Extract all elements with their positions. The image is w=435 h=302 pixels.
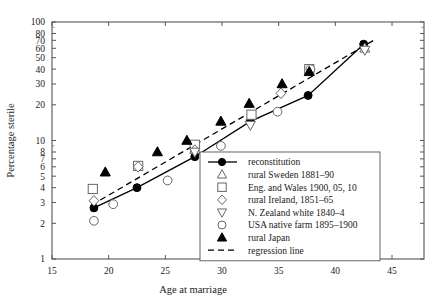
y-tick-label: 3 xyxy=(40,198,45,208)
data-point-filled-circle xyxy=(304,91,312,99)
data-point-triangle-up-filled xyxy=(100,167,110,176)
y-tick-label: 5 xyxy=(40,172,45,182)
legend-label: rural Sweden 1881–90 xyxy=(248,170,334,180)
data-point-circle-open xyxy=(216,142,225,151)
legend-label: reconstitution xyxy=(248,157,300,167)
y-tick-label: 40 xyxy=(36,65,46,75)
legend-label: USA native farm 1895–1900 xyxy=(248,220,358,230)
data-point-triangle-up-filled xyxy=(216,116,226,125)
x-tick-label: 40 xyxy=(331,266,341,276)
legend-label: regression line xyxy=(248,246,304,256)
legend-label: rural Japan xyxy=(248,233,290,243)
chart-figure: 123456781020304050607080100 152025303540… xyxy=(0,0,435,302)
y-tick-label: 20 xyxy=(36,100,46,110)
data-point-filled-circle xyxy=(133,184,141,192)
y-tick-label: 4 xyxy=(40,183,45,193)
y-axis-title: Percentage sterile xyxy=(5,103,16,178)
data-point-circle-open xyxy=(90,216,99,225)
sterility-log-scatter-chart: 123456781020304050607080100 152025303540… xyxy=(0,0,435,302)
data-point-triangle-up-filled xyxy=(152,147,162,156)
data-point-triangle-up-filled xyxy=(277,79,287,88)
x-axis-title: Age at marriage xyxy=(159,284,227,295)
chart-legend: reconstitutionrural Sweden 1881–90Eng. a… xyxy=(200,152,380,261)
x-tick-label: 25 xyxy=(161,266,171,276)
x-tick-label: 35 xyxy=(274,266,284,276)
data-point-circle-open xyxy=(273,107,282,116)
y-tick-label: 10 xyxy=(36,136,46,146)
legend-label: N. Zealand white 1840–4 xyxy=(248,208,345,218)
y-tick-label: 80 xyxy=(36,29,46,39)
data-point-circle-open xyxy=(109,200,118,209)
data-point-square-open xyxy=(88,184,97,193)
legend-box xyxy=(200,152,380,261)
data-point-triangle-up-filled xyxy=(244,98,254,107)
y-tick-label: 1 xyxy=(40,254,45,264)
y-tick-label: 2 xyxy=(40,219,45,229)
data-point-diamond-open xyxy=(89,195,99,206)
axis-titles: Age at marriagePercentage sterile xyxy=(5,103,227,295)
legend-label: Eng. and Wales 1900, 05, 10 xyxy=(248,183,357,193)
y-tick-label: 8 xyxy=(40,147,45,157)
data-point-filled-circle xyxy=(218,158,225,165)
x-tick-label: 20 xyxy=(104,266,114,276)
data-point-square-open xyxy=(218,183,226,191)
y-tick-label: 50 xyxy=(36,53,46,63)
data-point-circle-open xyxy=(218,221,226,229)
data-point-circle-open xyxy=(163,176,172,185)
x-tick-label: 30 xyxy=(217,266,227,276)
data-point-square-open xyxy=(247,110,256,119)
legend-label: rural Ireland, 1851–65 xyxy=(248,195,333,205)
y-tick-label: 100 xyxy=(31,17,46,27)
x-tick-label: 45 xyxy=(387,266,397,276)
data-point-triangle-down-open xyxy=(245,121,255,130)
y-tick-label: 30 xyxy=(36,79,46,89)
x-tick-label: 15 xyxy=(47,266,57,276)
